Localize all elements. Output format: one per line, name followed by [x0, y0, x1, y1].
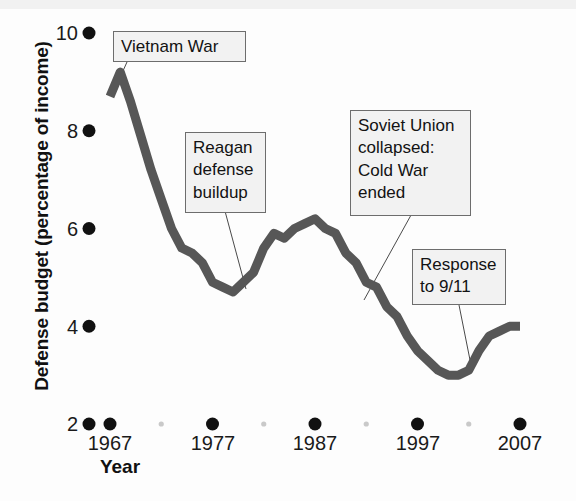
y-tick-dot-10: [83, 27, 96, 40]
annotation-reagan-defense-buildup[interactable]: Reagan defense buildup: [185, 132, 266, 213]
y-tick-dot-8: [83, 124, 96, 137]
x-minor-tick-dot-1992: [364, 421, 369, 426]
leader-line-response-to-911: [459, 305, 470, 360]
x-tick-dot-2007: [514, 418, 527, 431]
x-tick-dots: [104, 418, 527, 431]
annotation-vietnam-war[interactable]: Vietnam War: [113, 31, 246, 62]
x-minor-tick-dot-2002: [466, 421, 471, 426]
chart-container: Defense budget (percentage of income) 10…: [0, 0, 576, 501]
y-tick-dots: [83, 27, 96, 431]
x-minor-tick-dot-1982: [261, 421, 266, 426]
x-tick-dot-1967: [104, 418, 117, 431]
annotation-response-to-911[interactable]: Response to 9/11: [412, 249, 506, 305]
y-tick-dot-2: [83, 418, 96, 431]
y-tick-dot-6: [83, 222, 96, 235]
y-tick-dot-4: [83, 320, 96, 333]
x-tick-dot-1987: [309, 418, 322, 431]
x-tick-dot-1997: [411, 418, 424, 431]
x-minor-tick-dot-1972: [159, 421, 164, 426]
x-tick-dot-1977: [206, 418, 219, 431]
annotation-soviet-union-collapsed[interactable]: Soviet Union collapsed: Cold War ended: [350, 110, 471, 216]
